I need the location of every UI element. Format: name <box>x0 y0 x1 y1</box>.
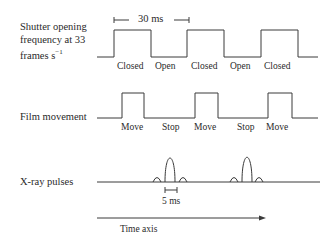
period-label: 30 ms <box>138 13 163 26</box>
pulse-width-label: 5 ms <box>162 195 180 208</box>
film-state: Move <box>194 121 216 134</box>
film-state: Move <box>266 121 288 134</box>
xray-waveform <box>97 157 320 182</box>
shutter-waveform <box>97 30 318 57</box>
film-state: Move <box>121 121 143 134</box>
shutter-state: Closed <box>117 60 143 73</box>
shutter-state: Closed <box>191 60 217 73</box>
xray-row-label: X-ray pulses <box>20 176 73 189</box>
film-row-label: Film movement <box>20 111 87 124</box>
film-waveform <box>97 93 318 118</box>
film-state: Stop <box>162 121 179 134</box>
time-axis-arrow <box>97 216 266 221</box>
film-state: Stop <box>237 121 254 134</box>
shutter-state: Closed <box>264 60 290 73</box>
shutter-state: Open <box>230 60 251 73</box>
shutter-row-label: Shutter opening frequency at 33 frames s… <box>20 21 87 62</box>
shutter-state: Open <box>155 60 176 73</box>
pulse-width-marker <box>165 187 177 193</box>
time-axis-label: Time axis <box>120 223 157 236</box>
